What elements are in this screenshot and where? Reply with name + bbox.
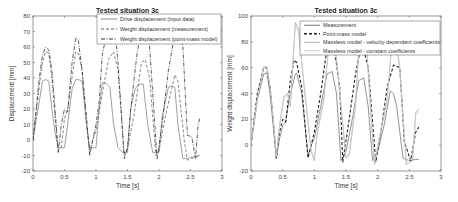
x-tick-label: 3 [220,174,224,180]
legend-entry: Weight displacement (point-mass model) [120,36,218,42]
y-tick-label: -10 [21,153,30,159]
x-tick-label: 0.5 [278,174,287,180]
y-tick-label: 40 [23,75,30,81]
legend-entry: Measurement [323,22,356,28]
y-tick-label: -20 [21,168,30,174]
legend: Drive displacement (input data)Weight di… [97,14,221,44]
y-tick-label: 80 [23,13,30,19]
x-tick-label: 2.5 [186,174,195,180]
y-tick-label: 50 [23,60,30,66]
figure: 00.511.522.53-20-1001020304050607080Test… [0,0,458,202]
x-tick-label: 2 [157,174,161,180]
y-axis-label: Displacement [mm] [8,65,16,121]
x-tick-label: 3 [439,174,443,180]
y-tick-label: 70 [23,29,30,35]
legend-entry: Point-mass model [323,31,366,37]
x-tick-label: 1 [94,174,98,180]
x-tick-label: 0 [249,174,253,180]
y-tick-label: 60 [23,44,30,50]
y-tick-label: 30 [23,91,30,97]
y-tick-label: 0 [245,142,249,148]
y-axis-label: Weight displacement [mm] [226,55,234,132]
legend-entry: Massless model - velocity-dependent coef… [323,39,440,45]
x-tick-label: 1.5 [342,174,351,180]
legend-entry: Drive displacement (input data) [120,16,195,22]
y-tick-label: 0 [27,137,31,143]
y-tick-label: 60 [241,65,248,71]
x-tick-label: 0 [31,174,35,180]
x-tick-label: 1.5 [123,174,132,180]
y-tick-label: 80 [241,39,248,45]
x-axis-label: Time [s] [335,182,358,190]
x-tick-label: 2 [376,174,380,180]
legend-entry: Massless model - constant coefficients [323,48,415,54]
y-tick-label: -20 [239,168,248,174]
right-chart: 00.511.522.53-20020406080100Tested situa… [226,7,443,190]
y-tick-label: 40 [241,91,248,97]
x-tick-label: 2.5 [405,174,414,180]
x-axis-label: Time [s] [116,182,139,190]
x-tick-label: 0.5 [60,174,69,180]
chart-title: Tested situation 3c [96,7,159,14]
y-tick-label: 10 [23,122,30,128]
y-tick-label: 20 [241,116,248,122]
legend: MeasurementPoint-mass modelMassless mode… [300,21,440,55]
x-tick-label: 1 [313,174,317,180]
y-tick-label: 20 [23,106,30,112]
left-chart: 00.511.522.53-20-1001020304050607080Test… [8,7,224,190]
legend-entry: Weight displacement (measurement) [120,26,208,32]
chart-title: Tested situation 3c [315,7,378,14]
y-tick-label: 100 [238,13,249,19]
